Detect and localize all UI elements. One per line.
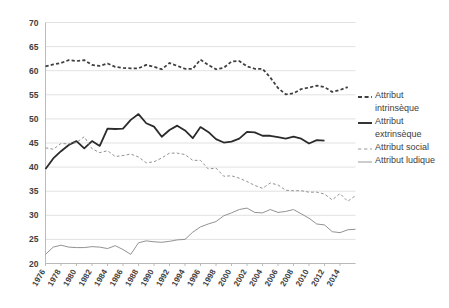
series-line-1 — [46, 114, 325, 169]
x-axis-tick-label: 1990 — [139, 268, 156, 288]
line-chart: 2025303540455055606570 19761978198019821… — [0, 0, 449, 308]
x-axis-tick-label: 2008 — [279, 268, 296, 288]
legend-item-attribut-social[interactable]: Attribut social — [358, 141, 449, 154]
dashed-bold-line-icon — [358, 89, 372, 102]
legend-label: Attribut ludique — [375, 154, 449, 167]
x-axis-tick-label: 1994 — [170, 268, 187, 288]
x-axis-tick-label: 2004 — [248, 268, 265, 288]
y-axis-tick-label: 60 — [29, 66, 39, 76]
solid-bold-line-icon — [358, 115, 372, 128]
solid-light-line-icon — [358, 154, 372, 167]
y-axis-tick-label: 55 — [29, 90, 39, 100]
chart-legend: Attribut intrinsèque Attribut extrinsèqu… — [358, 89, 449, 167]
data-series-group — [46, 60, 356, 255]
x-axis-tick-label: 2014 — [325, 268, 342, 288]
x-axis-tick-label: 1976 — [31, 268, 48, 288]
y-axis-tick-label: 40 — [29, 162, 39, 172]
legend-label: Attribut extrinsèque — [375, 115, 449, 141]
x-axis-tick-label: 2000 — [217, 268, 234, 288]
x-axis-tick-label: 1992 — [155, 268, 172, 288]
x-axis-tick-label: 1996 — [186, 268, 203, 288]
x-axis-tick-label: 2002 — [232, 268, 249, 288]
y-axis-tick-label: 50 — [29, 114, 39, 124]
y-axis-tick-label: 70 — [29, 18, 39, 28]
legend-item-attribut-ludique[interactable]: Attribut ludique — [358, 154, 449, 167]
x-axis-tick-label: 1998 — [201, 268, 218, 288]
x-axis-tick-label: 1978 — [46, 268, 63, 288]
y-axis-tick-label: 20 — [29, 259, 39, 269]
x-axis-tick-label: 2006 — [263, 268, 280, 288]
x-axis-tick-label: 1982 — [77, 268, 94, 288]
y-axis-tick-label: 65 — [29, 42, 39, 52]
y-axis-tick-labels: 2025303540455055606570 — [29, 18, 39, 269]
y-axis-tick-label: 30 — [29, 210, 39, 220]
x-axis-tick-label: 1980 — [62, 268, 79, 288]
legend-label: Attribut social — [375, 141, 449, 154]
x-axis-tick-label: 2012 — [310, 268, 327, 288]
x-axis-tick-label: 1988 — [124, 268, 141, 288]
legend-item-attribut-intrinseque[interactable]: Attribut intrinsèque — [358, 89, 449, 115]
y-axis-tick-label: 45 — [29, 138, 39, 148]
series-line-0 — [46, 60, 348, 95]
y-axis-tick-label: 35 — [29, 186, 39, 196]
legend-item-attribut-extrinseque[interactable]: Attribut extrinsèque — [358, 115, 449, 141]
series-line-2 — [46, 137, 356, 202]
dashed-light-line-icon — [358, 141, 372, 154]
x-axis-tick-labels: 1976197819801982198419861988199019921994… — [31, 268, 342, 288]
x-axis-tick-label: 2010 — [294, 268, 311, 288]
y-axis-tick-label: 25 — [29, 234, 39, 244]
legend-label: Attribut intrinsèque — [375, 89, 449, 115]
x-axis-tick-label: 1986 — [108, 268, 125, 288]
x-axis-tick-label: 1984 — [93, 268, 110, 288]
